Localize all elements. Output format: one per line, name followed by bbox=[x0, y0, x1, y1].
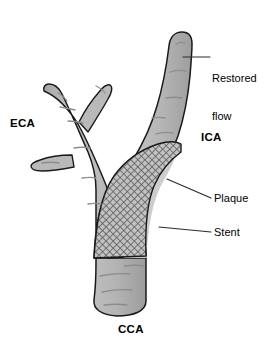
label-restored-flow-line2: flow bbox=[212, 110, 257, 123]
label-cca: CCA bbox=[118, 323, 144, 336]
stent-leader bbox=[159, 227, 211, 232]
label-stent: Stent bbox=[214, 226, 240, 239]
label-restored-flow: Restored flow bbox=[212, 47, 257, 135]
eca-inferior-branch bbox=[31, 155, 74, 171]
stent-region bbox=[94, 142, 181, 258]
label-restored-flow-line1: Restored bbox=[212, 72, 257, 85]
label-eca: ECA bbox=[10, 117, 35, 130]
eca-superior-branch bbox=[79, 85, 112, 132]
vessel-group bbox=[31, 32, 192, 316]
label-plaque: Plaque bbox=[214, 192, 248, 205]
plaque-leader bbox=[167, 179, 211, 198]
